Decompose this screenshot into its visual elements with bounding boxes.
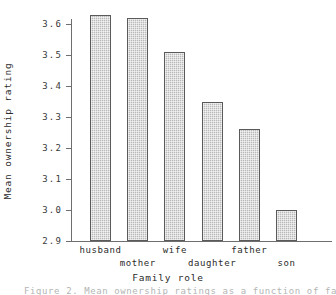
figure-caption: Figure 2. Mean ownership ratings as a fu…	[24, 286, 336, 295]
y-tick-label: 3.1	[42, 174, 62, 184]
x-axis-line	[71, 241, 332, 242]
y-tick	[66, 241, 71, 242]
plot-area: 2.93.03.13.23.33.43.53.6	[71, 19, 332, 241]
x-tick-label-wife: wife	[163, 245, 187, 255]
y-tick	[66, 210, 71, 211]
y-axis-title: Mean ownership rating	[2, 63, 13, 200]
y-tick	[66, 148, 71, 149]
bar-son	[276, 210, 297, 241]
y-tick-label: 3.3	[42, 112, 62, 122]
y-tick	[66, 24, 71, 25]
y-tick-label: 3.5	[42, 50, 62, 60]
x-tick-label-father: father	[231, 245, 267, 255]
x-axis-title: Family role	[0, 272, 336, 283]
bar-wife	[164, 52, 185, 241]
y-tick-label: 3.2	[42, 143, 62, 153]
x-tick-label-daughter: daughter	[188, 258, 236, 268]
figure: Mean ownership rating 2.93.03.13.23.33.4…	[0, 0, 336, 295]
bar-husband	[90, 15, 111, 241]
bar-father	[239, 129, 260, 241]
y-tick-label: 2.9	[42, 236, 62, 246]
y-tick	[66, 117, 71, 118]
bar-daughter	[202, 102, 223, 242]
y-tick-label: 3.0	[42, 205, 62, 215]
y-tick-label: 3.4	[42, 81, 62, 91]
y-tick	[66, 179, 71, 180]
y-tick-label: 3.6	[42, 19, 62, 29]
bar-mother	[127, 18, 148, 241]
x-tick-label-husband: husband	[79, 245, 121, 255]
y-tick	[66, 55, 71, 56]
x-tick-label-mother: mother	[120, 258, 156, 268]
y-tick	[66, 86, 71, 87]
x-tick-label-son: son	[277, 258, 295, 268]
